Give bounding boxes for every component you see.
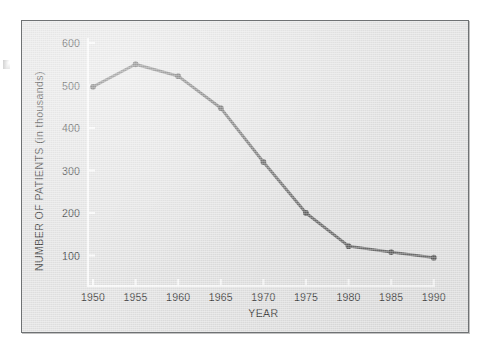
x-tick-label: 1985 xyxy=(379,291,403,303)
data-point xyxy=(346,243,352,249)
x-axis-tick-labels: 1950 1955 1960 1965 1970 1975 1980 1985 … xyxy=(81,291,446,303)
data-point xyxy=(303,210,309,216)
data-point xyxy=(175,73,181,79)
x-tick-label: 1960 xyxy=(166,291,190,303)
x-tick-label: 1990 xyxy=(422,291,446,303)
y-axis-title: NUMBER OF PATIENTS (in thousands) xyxy=(33,71,45,271)
scan-artifact-speck xyxy=(3,60,10,69)
series-markers xyxy=(90,61,437,260)
data-point xyxy=(431,255,437,261)
y-tick-label: 600 xyxy=(62,37,80,49)
chart-svg: NUMBER OF PATIENTS (in thousands) 600 50… xyxy=(22,21,470,334)
line-chart: NUMBER OF PATIENTS (in thousands) 600 50… xyxy=(22,21,470,334)
y-tick-label: 200 xyxy=(62,207,80,219)
data-point xyxy=(90,84,96,90)
x-tick-label: 1975 xyxy=(294,291,318,303)
y-tick-label: 300 xyxy=(62,165,80,177)
y-tick-label: 400 xyxy=(62,122,80,134)
x-tick-label: 1970 xyxy=(251,291,275,303)
y-axis-tick-labels: 600 500 400 300 200 100 xyxy=(62,37,80,262)
x-axis-title: YEAR xyxy=(248,307,278,319)
scanned-page: NUMBER OF PATIENTS (in thousands) 600 50… xyxy=(0,0,488,356)
x-tick-label: 1980 xyxy=(337,291,361,303)
data-point xyxy=(133,61,139,67)
figure-frame: NUMBER OF PATIENTS (in thousands) 600 50… xyxy=(21,20,469,333)
y-tick-label: 100 xyxy=(62,250,80,262)
x-tick-label: 1955 xyxy=(124,291,148,303)
x-tick-label: 1965 xyxy=(209,291,233,303)
y-tick-label: 500 xyxy=(62,80,80,92)
data-point xyxy=(261,159,267,165)
x-tick-label: 1950 xyxy=(81,291,105,303)
data-point xyxy=(388,249,394,255)
data-point xyxy=(218,105,224,111)
